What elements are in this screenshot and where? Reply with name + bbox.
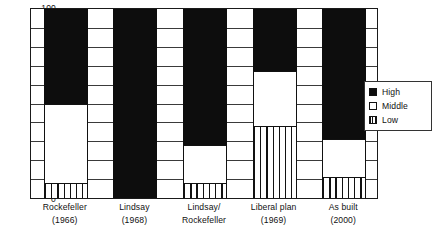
bar-4 (253, 9, 297, 198)
x-label-5-line-1: As built (300, 201, 386, 214)
bar-2-segment-high (113, 9, 157, 198)
bar-4-segment-high (253, 9, 297, 71)
white-swatch-icon (369, 102, 377, 110)
bar-5 (322, 9, 366, 198)
x-label-5-line-2: (2000) (300, 214, 386, 227)
bar-1-segment-high (44, 9, 88, 104)
bars-layer (31, 9, 377, 198)
bar-3-segment-low (183, 183, 227, 198)
bar-5-segment-high (322, 9, 366, 139)
bar-1-segment-middle (44, 104, 88, 183)
bar-1 (44, 9, 88, 198)
legend-label-high: High (382, 87, 400, 97)
bar-3-segment-middle (183, 145, 227, 183)
bar-1-segment-low (44, 183, 88, 198)
legend: High Middle Low (364, 81, 432, 131)
legend-label-middle: Middle (382, 101, 408, 111)
legend-item-middle[interactable]: Middle (369, 99, 427, 113)
legend-item-high[interactable]: High (369, 85, 427, 99)
plot-area (30, 8, 378, 199)
hatched-swatch-icon (369, 116, 377, 124)
bar-3-segment-high (183, 9, 227, 145)
x-axis-category-labels: Rockefeller(1966)Lindsay(1968)Lindsay/Ro… (30, 201, 378, 239)
solid-black-swatch-icon (369, 88, 377, 96)
x-label-5: As built(2000) (300, 201, 386, 226)
bar-4-segment-low (253, 126, 297, 198)
legend-item-low[interactable]: Low (369, 113, 427, 127)
bar-4-segment-middle (253, 71, 297, 126)
bar-5-segment-middle (322, 139, 366, 177)
bar-3 (183, 9, 227, 198)
bar-5-segment-low (322, 177, 366, 198)
bar-2 (113, 9, 157, 198)
legend-label-low: Low (382, 115, 398, 125)
stacked-bar-chart: 0102030405060708090100 Rockefeller(1966)… (0, 0, 439, 240)
